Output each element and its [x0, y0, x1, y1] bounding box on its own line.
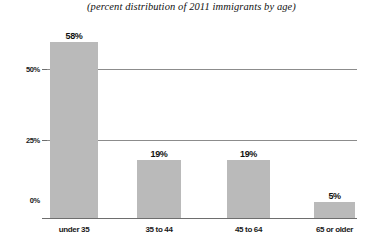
bar-value-under-35: 58%	[50, 31, 98, 41]
x-axis-baseline	[42, 218, 357, 219]
bar-value-65-or-older: 5%	[314, 191, 355, 201]
tick-mark-25	[42, 140, 47, 141]
y-tick-label-50: 50%	[6, 65, 40, 74]
category-label-under-35: under 35	[40, 225, 108, 234]
category-label-35-to-44: 35 to 44	[127, 225, 191, 234]
y-tick-label-25: 25%	[6, 136, 40, 145]
bar-65-or-older[interactable]	[314, 202, 355, 218]
tick-mark-50	[42, 69, 47, 70]
bar-45-to-64[interactable]	[227, 160, 270, 218]
category-label-45-to-64: 45 to 64	[217, 225, 280, 234]
bar-chart-figure: (percent distribution of 2011 immigrants…	[0, 0, 383, 250]
plot-area	[47, 28, 357, 218]
bar-value-35-to-44: 19%	[137, 149, 181, 159]
y-tick-label-0: 0%	[6, 196, 40, 205]
chart-subtitle: (percent distribution of 2011 immigrants…	[0, 1, 383, 12]
bar-under-35[interactable]	[50, 42, 98, 218]
bar-value-45-to-64: 19%	[227, 149, 270, 159]
bar-35-to-44[interactable]	[137, 160, 181, 218]
category-label-65-or-older: 65 or older	[302, 225, 367, 234]
